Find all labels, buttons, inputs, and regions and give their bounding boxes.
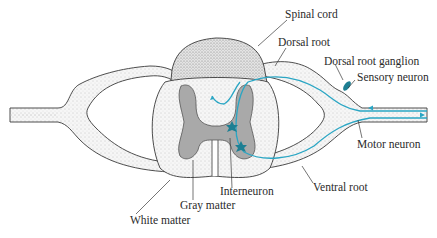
sensory-neuron-cell-body	[342, 80, 353, 92]
label-gray-matter: Gray matter	[180, 200, 235, 212]
label-motor-neuron: Motor neuron	[357, 139, 421, 151]
label-sensory-neuron: Sensory neuron	[357, 72, 429, 84]
label-dorsal-root-ganglion: Dorsal root ganglion	[324, 56, 419, 68]
label-interneuron: Interneuron	[220, 186, 274, 198]
label-white-matter: White matter	[130, 215, 190, 227]
label-ventral-root: Ventral root	[313, 182, 368, 194]
spinal-cord	[152, 38, 279, 178]
label-spinal-cord: Spinal cord	[285, 9, 338, 21]
label-dorsal-root: Dorsal root	[278, 37, 330, 49]
